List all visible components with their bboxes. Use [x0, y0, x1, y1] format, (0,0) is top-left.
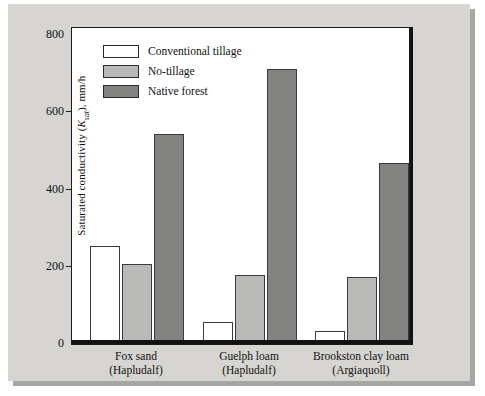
- x-axis-group-label-line1: Brookston clay loam: [271, 349, 451, 363]
- bar: [267, 69, 297, 341]
- x-axis-group-label: Brookston clay loam(Argiaquoll): [271, 349, 451, 378]
- bar: [203, 322, 233, 341]
- y-axis-tick-label: 0: [34, 337, 64, 349]
- x-axis-group-label-line2: (Argiaquoll): [271, 363, 451, 377]
- bar: [379, 163, 409, 341]
- y-axis-tick-label: 800: [34, 28, 64, 40]
- bar: [235, 275, 265, 341]
- y-axis-tick-label: 600: [34, 105, 64, 117]
- bar: [154, 134, 184, 341]
- y-axis-tick-label: 200: [34, 260, 64, 272]
- bars-layer: [72, 28, 409, 344]
- plot-area: Saturated conductivity (Ksat), mm/h 0200…: [71, 27, 410, 345]
- x-axis-line: [72, 340, 409, 344]
- bar: [347, 277, 377, 341]
- bar: [122, 264, 152, 341]
- bar: [90, 246, 120, 341]
- figure-panel: Saturated conductivity (Ksat), mm/h 0200…: [8, 4, 470, 381]
- y-axis-tick-label: 400: [34, 183, 64, 195]
